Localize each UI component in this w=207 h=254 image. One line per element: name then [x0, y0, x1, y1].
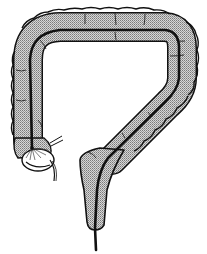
- colon-body: [12, 8, 199, 231]
- cecum-end: [14, 136, 63, 181]
- colon-band: [28, 27, 182, 160]
- sigmoid-rectum: [80, 148, 124, 230]
- colon-illustration: [0, 0, 207, 254]
- cecum-opening: [22, 149, 54, 171]
- tube-tip: [30, 146, 34, 150]
